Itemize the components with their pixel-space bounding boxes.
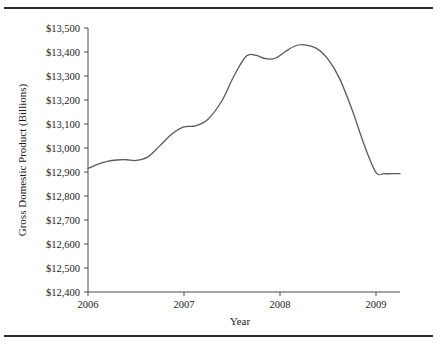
y-axis-tick-label: $12,700 <box>46 215 80 226</box>
x-axis-tick-label: 2009 <box>366 299 387 310</box>
x-axis-ticks <box>88 292 376 296</box>
x-axis-title: Year <box>230 315 251 327</box>
y-axis-tick-label: $13,400 <box>46 47 80 58</box>
y-axis-tick-label: $13,200 <box>46 95 80 106</box>
chart-plot-area: $13,500$13,400$13,300$13,200$13,100$13,0… <box>0 0 437 349</box>
y-axis-tick-label: $12,400 <box>46 287 80 298</box>
y-axis-tick-label: $13,500 <box>46 23 80 34</box>
x-axis-tick-labels: 2006200720082009 <box>78 299 387 310</box>
x-axis-group: 2006200720082009 <box>78 292 401 310</box>
y-axis-tick-label: $12,900 <box>46 167 80 178</box>
gdp-series-line <box>88 45 400 175</box>
y-axis-tick-label: $12,500 <box>46 263 80 274</box>
x-axis-tick-label: 2006 <box>78 299 99 310</box>
y-axis-tick-labels: $13,500$13,400$13,300$13,200$13,100$13,0… <box>46 23 80 298</box>
y-axis-title: Gross Domestic Product (Billions) <box>16 83 29 236</box>
y-axis-tick-label: $13,100 <box>46 119 80 130</box>
y-axis-tick-label: $13,300 <box>46 71 80 82</box>
y-axis-tick-label: $13,000 <box>46 143 80 154</box>
y-axis-tick-label: $12,600 <box>46 239 80 250</box>
y-axis-group: $13,500$13,400$13,300$13,200$13,100$13,0… <box>46 23 88 298</box>
x-axis-tick-label: 2008 <box>270 299 291 310</box>
y-axis-tick-label: $12,800 <box>46 191 80 202</box>
y-axis-ticks <box>84 28 88 292</box>
x-axis-tick-label: 2007 <box>174 299 195 310</box>
gdp-line-chart-figure: $13,500$13,400$13,300$13,200$13,100$13,0… <box>0 0 437 349</box>
